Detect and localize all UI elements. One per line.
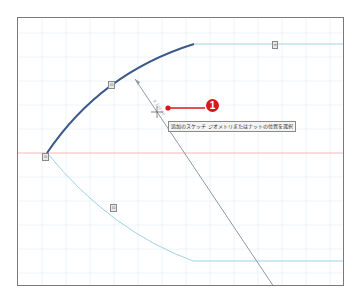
origin-constraint-badge[interactable]: ⊙ bbox=[42, 153, 49, 161]
radius-dimension-line[interactable] bbox=[135, 79, 274, 286]
callout-dot-icon bbox=[165, 105, 170, 110]
sketch-canvas[interactable]: R 100.00 bbox=[17, 17, 344, 286]
lower-arc-constraint-badge[interactable]: ⊡ bbox=[110, 204, 117, 212]
cursor-tooltip: 追加のスケッチ ジオメトリまたはナットの位置を選択 bbox=[168, 121, 296, 132]
arc-constraint-badge[interactable]: ⊡ bbox=[108, 81, 115, 89]
selected-arc[interactable] bbox=[47, 44, 194, 153]
callout-number: 1 bbox=[206, 99, 219, 112]
top-line-constraint-badge[interactable]: ═ bbox=[272, 41, 278, 49]
grid bbox=[18, 18, 344, 286]
sketch-geometry[interactable]: R 100.00 bbox=[18, 18, 344, 286]
lower-arc[interactable] bbox=[48, 154, 193, 261]
